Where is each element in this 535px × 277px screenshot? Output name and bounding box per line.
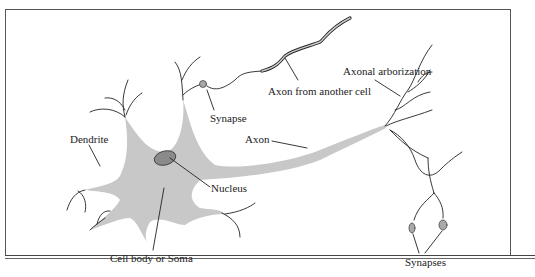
dendrite-branch	[222, 213, 240, 237]
label-axon-from-another-cell: Axon from another cell	[268, 85, 371, 97]
label-axon: Axon	[245, 133, 270, 145]
leader-line-dendrite	[89, 145, 100, 166]
label-cell-body: Cell body or Soma	[110, 252, 193, 264]
label-nucleus: Nucleus	[211, 182, 247, 194]
axonal-branch	[434, 193, 443, 218]
dendrite-branch	[105, 98, 125, 110]
dendrite-branch	[126, 93, 142, 115]
dendrite-branch	[67, 190, 85, 210]
axonal-branch	[385, 45, 432, 126]
synapse-node	[409, 223, 415, 233]
dendrite-branch	[175, 62, 183, 100]
label-dendrite: Dendrite	[70, 133, 109, 145]
dendrite-branch	[78, 191, 86, 212]
dendrite-branch	[182, 57, 200, 80]
leader-line-axon	[272, 141, 307, 148]
axonal-branch	[390, 130, 428, 158]
dendrite-branch	[225, 203, 255, 214]
axon-from-another-cell	[207, 71, 262, 89]
axonal-branch	[390, 130, 462, 175]
leader-line-synapses-1	[413, 234, 419, 253]
leader-line-synapse	[207, 90, 214, 110]
leader-line-synapses-2	[425, 231, 442, 253]
synapse-node	[200, 81, 207, 88]
leader-line-axon-another	[285, 58, 298, 80]
label-synapse: Synapse	[210, 112, 247, 124]
neuron-diagram: Synapse Axon from another cell Axonal ar…	[0, 0, 535, 277]
label-axonal-arborization: Axonal arborization	[343, 65, 432, 77]
axonal-branch	[386, 110, 432, 126]
leader-line-arborization	[375, 80, 400, 96]
axonal-branch	[414, 193, 434, 220]
axonal-branch	[395, 92, 430, 110]
label-synapses: Synapses	[405, 256, 446, 268]
dendrite-branch	[90, 109, 125, 117]
synapse-node	[439, 220, 447, 230]
